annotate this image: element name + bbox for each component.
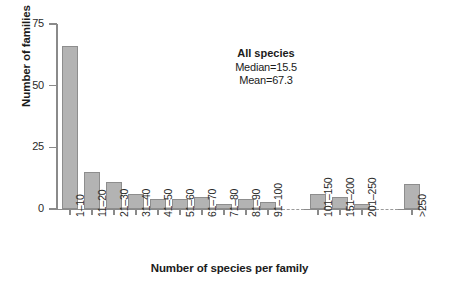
- x-axis-tick: [267, 209, 269, 215]
- y-axis-line: [56, 24, 58, 210]
- y-axis-tick: [49, 23, 57, 25]
- x-axis-category-label: 61–70: [206, 189, 218, 217]
- x-axis-tick: [91, 209, 93, 215]
- y-axis-tick-label: 50: [4, 79, 44, 91]
- x-axis-tick: [361, 209, 363, 215]
- y-axis-tick: [49, 147, 57, 149]
- annotation-mean: Mean=67.3: [196, 74, 336, 87]
- x-axis-break-dashed: [376, 209, 398, 210]
- x-axis-tick: [157, 209, 159, 215]
- x-axis-tick: [245, 209, 247, 215]
- annotation-all-species: All species Median=15.5 Mean=67.3: [196, 47, 336, 87]
- x-axis-tick: [317, 209, 319, 215]
- x-axis-title: Number of species per family: [0, 262, 459, 274]
- x-axis-tick: [69, 209, 71, 215]
- x-axis-tick: [339, 209, 341, 215]
- x-axis-break-dashed: [282, 209, 304, 210]
- x-axis-tick: [135, 209, 137, 215]
- x-axis-category-label: 151–200: [344, 178, 356, 217]
- bar: [62, 46, 78, 209]
- x-axis-category-label: >250: [416, 194, 428, 217]
- x-axis-tick: [113, 209, 115, 215]
- annotation-median: Median=15.5: [196, 61, 336, 74]
- x-axis-category-label: 91–100: [272, 183, 284, 217]
- y-axis-tick-label: 0: [4, 202, 44, 214]
- x-axis-tick: [179, 209, 181, 215]
- x-axis-tick: [201, 209, 203, 215]
- y-axis-tick-label: 75: [4, 17, 44, 29]
- chart-figure: Number of families 75502501–1011–2021–30…: [0, 0, 459, 287]
- y-axis-tick-label: 25: [4, 140, 44, 152]
- y-axis-tick: [49, 85, 57, 87]
- x-axis-category-label: 201–250: [366, 178, 378, 217]
- annotation-title: All species: [196, 47, 336, 59]
- x-axis-tick: [411, 209, 413, 215]
- x-axis-tick: [223, 209, 225, 215]
